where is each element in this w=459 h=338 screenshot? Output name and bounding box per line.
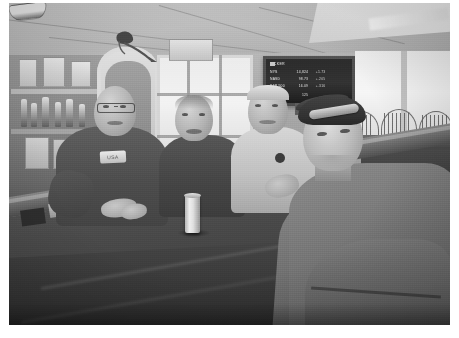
shirt-logo-text: USA <box>100 150 127 163</box>
person-left-eye <box>103 105 109 108</box>
person-foreground-chin <box>309 155 355 171</box>
ticker-price: 98.73 <box>288 77 308 82</box>
ticker-symbol: NASD <box>270 77 287 82</box>
bar-lower-shadow <box>9 303 450 325</box>
liquor-bottle <box>79 104 85 127</box>
sailfish-mount-icon <box>107 29 161 63</box>
person-center-right-mouth <box>259 120 276 124</box>
back-bar-poster <box>19 59 37 87</box>
liquor-bottle <box>66 99 73 127</box>
ticker-change: +.205 <box>309 77 325 82</box>
ticker-change: +1.73 <box>309 70 325 75</box>
ticker-price: 16.09 <box>288 84 308 89</box>
person-center-right-eye <box>272 104 278 107</box>
liquor-bottle <box>31 103 37 127</box>
back-bar-shelf <box>11 89 103 94</box>
person-center-left-eye <box>199 113 205 116</box>
shirt-logo-patch: USA <box>100 150 127 163</box>
ticker-price: 14,824 <box>288 70 308 75</box>
person-center-left-eye <box>182 113 188 116</box>
person-left-eye <box>120 105 126 108</box>
person-center-right-eye <box>255 104 261 107</box>
back-bar-poster <box>43 57 65 87</box>
shirt-logo-icon <box>275 153 285 163</box>
back-bar-menu-card <box>25 137 49 169</box>
photograph: TICKER NYS 14,824 +1.73 NASD 98.73 +.205… <box>9 3 450 325</box>
ticker-row: NASD 98.73 +.205 <box>270 77 348 82</box>
liquor-bottle <box>21 99 27 127</box>
framed-wall-sign <box>169 39 213 61</box>
ticker-row: NYS 14,824 +1.73 <box>270 70 348 75</box>
ticker-price: 125 <box>288 93 308 98</box>
back-bar-poster <box>71 61 91 87</box>
beverage-can-top <box>184 193 201 198</box>
liquor-bottle <box>42 97 49 127</box>
person-center-left-hair <box>175 95 213 109</box>
person-center-left-mouth <box>186 129 202 134</box>
ticker-change: +.316 <box>309 84 325 89</box>
liquor-bottle <box>55 102 61 127</box>
beverage-can <box>185 195 200 233</box>
ticker-symbol: NYS <box>270 70 287 75</box>
person-left-mouth <box>107 121 123 125</box>
screenshot-canvas: TICKER NYS 14,824 +1.73 NASD 98.73 +.205… <box>0 0 459 338</box>
coaster <box>20 207 46 226</box>
eyeglasses-icon <box>97 103 135 113</box>
person-center-right-hair <box>247 85 289 100</box>
